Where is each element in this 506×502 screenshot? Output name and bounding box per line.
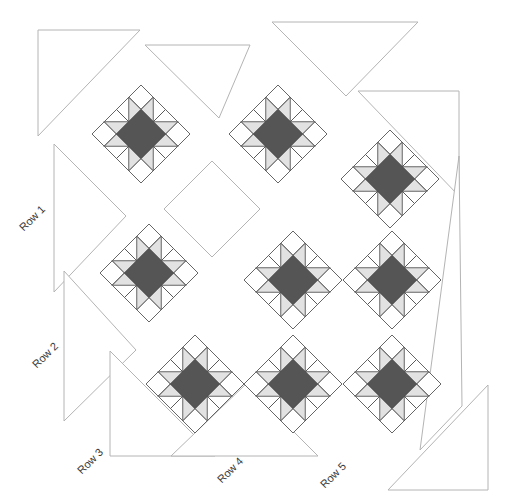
setting-triangle — [272, 22, 418, 96]
star-block — [92, 85, 190, 183]
setting-triangles — [38, 22, 488, 490]
star-block — [100, 224, 198, 322]
setting-squares — [164, 161, 260, 257]
star-block — [343, 231, 441, 329]
setting-square — [164, 161, 260, 257]
quilt-diagram: Row 1 Row 2 Row 3 Row 4 Row 5 — [0, 0, 506, 502]
pieced-blocks — [92, 85, 441, 433]
star-block — [244, 231, 342, 329]
setting-triangle — [420, 156, 462, 450]
star-block — [229, 85, 327, 183]
quilt-layout-svg — [0, 0, 506, 502]
